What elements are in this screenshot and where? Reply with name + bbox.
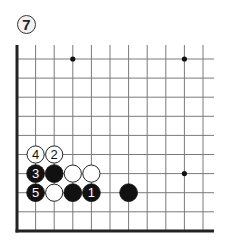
move-number-label: 5 (32, 185, 39, 200)
move-number-label: 4 (32, 147, 39, 162)
black-stone-1: 1 (83, 184, 101, 202)
black-stone-5: 5 (27, 184, 45, 202)
star-point (182, 171, 187, 176)
move-number-label: 2 (51, 147, 58, 162)
star-point (182, 56, 187, 61)
go-board: 42351 (0, 0, 228, 246)
grid-lines (17, 45, 214, 231)
white-stone (64, 165, 81, 182)
black-stone-icon (45, 165, 63, 183)
white-stone-icon (46, 184, 63, 201)
white-stone (46, 184, 63, 201)
white-stone (83, 165, 100, 182)
black-stone-3: 3 (27, 165, 45, 183)
star-point (70, 56, 75, 61)
black-stone-icon (120, 184, 138, 202)
black-stone (64, 184, 82, 202)
white-stone-icon (83, 165, 100, 182)
move-number-label: 3 (32, 166, 39, 181)
white-stone-4: 4 (27, 146, 44, 163)
black-stone-icon (64, 184, 82, 202)
black-stone (120, 184, 138, 202)
move-number-label: 1 (88, 185, 95, 200)
white-stone-2: 2 (46, 146, 63, 163)
black-stone (45, 165, 63, 183)
white-stone-icon (64, 165, 81, 182)
